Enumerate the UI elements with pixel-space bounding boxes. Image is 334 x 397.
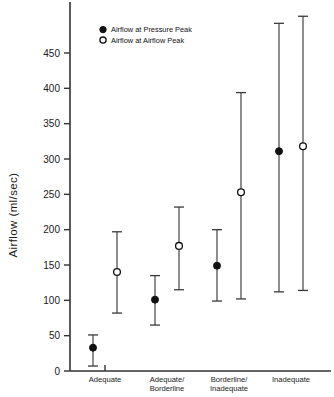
- legend-marker-open-circle: [100, 37, 106, 43]
- y-axis-ticks: 050100150200250300350400450: [43, 48, 70, 377]
- data-point: [236, 93, 246, 299]
- y-tick-label: 100: [43, 295, 60, 306]
- series-1: [88, 23, 284, 366]
- marker-open-circle: [176, 243, 183, 250]
- x-tick-label: Adequate/: [150, 375, 186, 384]
- y-axis-title: Airflow (ml/sec): [7, 173, 19, 258]
- y-axis-title-text: Airflow (ml/sec): [7, 173, 19, 258]
- x-tick-label: Adequate: [89, 375, 122, 384]
- chart-legend: Airflow at Pressure PeakAirflow at Airfl…: [100, 25, 192, 45]
- y-tick-label: 200: [43, 224, 60, 235]
- marker-filled-circle: [90, 344, 97, 351]
- data-point: [298, 16, 308, 290]
- x-tick-label: Borderline/: [211, 375, 249, 384]
- data-point: [112, 232, 122, 313]
- legend-marker-filled-circle: [100, 26, 106, 32]
- legend-label: Airflow at Pressure Peak: [111, 25, 192, 34]
- marker-open-circle: [300, 143, 307, 150]
- x-tick-label: Inadequate: [272, 375, 310, 384]
- y-tick-label: 350: [43, 118, 60, 129]
- x-tick-label: Borderline: [150, 384, 185, 393]
- chart-series-layer: [88, 16, 308, 366]
- y-tick-label: 50: [49, 330, 61, 341]
- marker-open-circle: [238, 189, 245, 196]
- y-tick-label: 250: [43, 189, 60, 200]
- y-tick-label: 0: [54, 366, 60, 377]
- data-point: [150, 276, 160, 325]
- legend-label: Airflow at Airflow Peak: [111, 36, 184, 45]
- data-point: [88, 335, 98, 366]
- y-tick-label: 400: [43, 83, 60, 94]
- y-tick-label: 450: [43, 48, 60, 59]
- legend-item: Airflow at Airflow Peak: [100, 36, 185, 45]
- chart-axes: [70, 2, 331, 371]
- y-tick-label: 300: [43, 154, 60, 165]
- data-point: [274, 23, 284, 292]
- chart-container: Airflow (ml/sec) 05010015020025030035040…: [0, 0, 334, 397]
- marker-filled-circle: [276, 148, 283, 155]
- data-point: [174, 207, 184, 290]
- airflow-scatter-chart: Airflow (ml/sec) 05010015020025030035040…: [0, 0, 334, 397]
- x-tick-label: Inadequate: [210, 384, 248, 393]
- x-axis-tick-labels: AdequateAdequate/BorderlineBorderline/In…: [89, 375, 310, 393]
- legend-item: Airflow at Pressure Peak: [100, 25, 192, 34]
- marker-filled-circle: [152, 296, 159, 303]
- marker-open-circle: [114, 269, 121, 276]
- y-tick-label: 150: [43, 260, 60, 271]
- data-point: [212, 230, 222, 301]
- marker-filled-circle: [214, 262, 221, 269]
